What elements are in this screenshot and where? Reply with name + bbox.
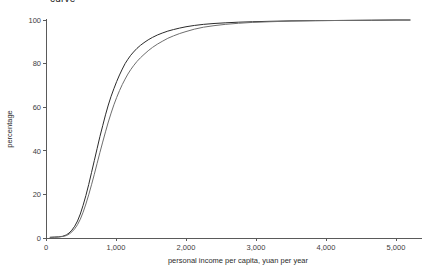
x-tick-label: 4,000 <box>317 243 336 252</box>
x-tick-label: 1,000 <box>107 243 126 252</box>
y-tick-label: 60 <box>33 103 41 112</box>
y-tick-label: 80 <box>33 59 41 68</box>
x-axis-title: personal income per capita, yuan per yea… <box>168 256 309 265</box>
x-tick-label: 0 <box>44 243 48 252</box>
y-axis-title: percentage <box>5 110 14 148</box>
chart-container: curve 02040608010001,0002,0003,0004,0005… <box>0 0 422 280</box>
y-tick-label: 40 <box>33 147 41 156</box>
series-line-series-gray <box>50 20 410 237</box>
series-line-series-dark <box>50 20 410 237</box>
chart-title: curve <box>50 0 75 4</box>
x-tick-label: 2,000 <box>177 243 196 252</box>
chart-plot-area: 02040608010001,0002,0003,0004,0005,000pe… <box>0 0 422 280</box>
y-tick-label: 100 <box>28 16 41 25</box>
x-tick-label: 3,000 <box>247 243 266 252</box>
y-tick-label: 20 <box>33 190 41 199</box>
y-tick-label: 0 <box>37 234 41 243</box>
x-tick-label: 5,000 <box>387 243 406 252</box>
